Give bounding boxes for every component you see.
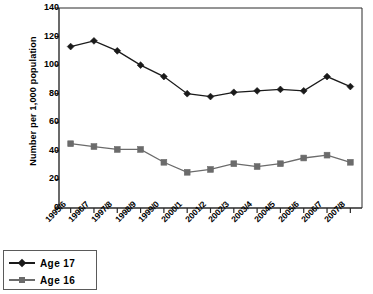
data-point-age-16-1998-9 xyxy=(138,147,144,153)
legend-item-age-16[interactable]: Age 16 xyxy=(9,272,75,288)
y-tick-label-40: 40 xyxy=(33,146,59,155)
data-point-age-17-2001-2 xyxy=(207,93,214,100)
data-point-age-16-2005-6 xyxy=(301,155,307,161)
line-chart: Number per 1,000 population 020406080100… xyxy=(0,0,373,294)
data-point-age-17-1995-6 xyxy=(67,43,74,50)
data-point-age-16-2006-7 xyxy=(324,152,330,158)
legend-marker-square-icon xyxy=(9,274,35,286)
legend-label-age-17: Age 17 xyxy=(40,258,75,269)
y-tick-label-140: 140 xyxy=(33,3,59,12)
data-point-age-17-1996-7 xyxy=(91,37,98,44)
y-tick-label-80: 80 xyxy=(33,89,59,98)
data-point-age-17-2006-7 xyxy=(324,73,331,80)
data-point-age-17-2005-6 xyxy=(300,87,307,94)
data-point-age-17-2004-5 xyxy=(277,86,284,93)
data-point-age-16-2002-3 xyxy=(231,161,237,167)
legend-item-age-17[interactable]: Age 17 xyxy=(9,255,75,271)
y-tick-label-20: 20 xyxy=(33,174,59,183)
data-point-age-16-2004-5 xyxy=(278,161,284,167)
legend-marker-diamond-icon xyxy=(9,257,35,269)
data-point-age-17-2002-3 xyxy=(230,89,237,96)
data-point-age-16-1996-7 xyxy=(91,144,97,150)
data-point-age-16-2003-4 xyxy=(254,164,260,170)
data-point-age-17-1997-8 xyxy=(114,47,121,54)
data-point-age-16-1999-0 xyxy=(161,159,167,165)
data-point-age-16-2000-1 xyxy=(184,169,190,175)
data-point-age-17-1998-9 xyxy=(137,62,144,69)
y-tick-label-60: 60 xyxy=(33,117,59,126)
data-point-age-16-1995-6 xyxy=(68,141,74,147)
legend-label-age-16: Age 16 xyxy=(40,275,75,286)
data-point-age-17-2003-4 xyxy=(254,87,261,94)
data-point-age-16-2001-2 xyxy=(208,167,214,173)
y-tick-label-100: 100 xyxy=(33,60,59,69)
data-point-age-16-1997-8 xyxy=(114,147,120,153)
y-tick-label-120: 120 xyxy=(33,32,59,41)
data-point-age-17-2007-8 xyxy=(347,83,354,90)
data-point-age-16-2007-8 xyxy=(347,159,353,165)
legend: Age 17 Age 16 xyxy=(3,250,97,290)
